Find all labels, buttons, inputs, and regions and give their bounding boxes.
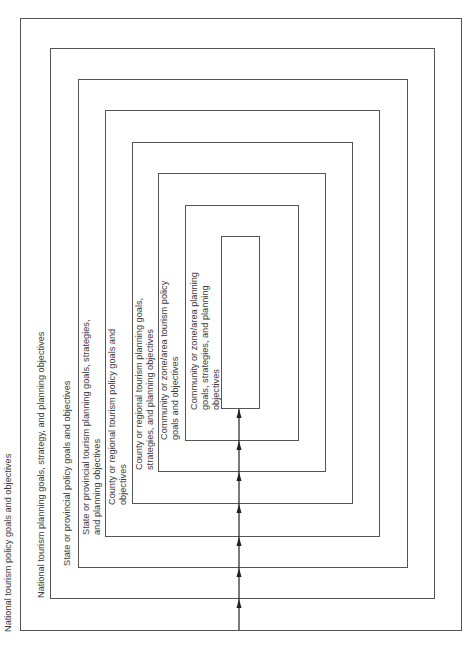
arrowhead-icon: [237, 599, 242, 608]
arrowhead-icon: [237, 504, 242, 513]
flow-arrows: [0, 0, 476, 649]
arrowhead-icon: [237, 537, 242, 546]
arrowhead-icon: [237, 409, 242, 418]
arrowhead-icon: [237, 472, 242, 481]
arrowhead-icon: [237, 568, 242, 577]
arrowhead-icon: [237, 441, 242, 450]
